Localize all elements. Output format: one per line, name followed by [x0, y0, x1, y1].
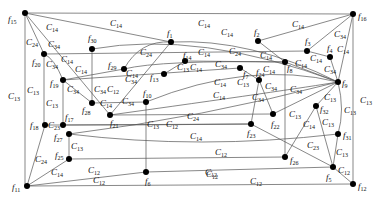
node-label-f26: f26: [290, 155, 299, 166]
edge-label: C13: [289, 109, 301, 120]
graph-node-f23: [248, 121, 254, 127]
edge-label: C24: [140, 47, 152, 58]
graph-node-f28: [89, 100, 95, 106]
graph-node-f13: [161, 71, 167, 77]
edge-label: C14: [213, 90, 225, 101]
graph-node-f20: [41, 51, 47, 57]
edge-label: C13: [147, 119, 159, 130]
graph-node-f30: [89, 46, 95, 52]
graph-node-f5: [330, 164, 336, 170]
node-labels: f15f16f1f2f30f20f3f4f14f29f13f8f7f24f9f1…: [8, 11, 367, 193]
graph-edge: [69, 157, 285, 159]
edge-label: C24: [35, 154, 47, 165]
node-label-f30: f30: [88, 33, 97, 44]
edge-label: C12: [215, 147, 227, 158]
graph-node-f11: [24, 183, 30, 189]
edge-label: C34: [94, 84, 106, 95]
node-label-f23: f23: [247, 128, 256, 139]
node-label-f12: f12: [358, 181, 367, 192]
edge-label: C13: [324, 92, 336, 103]
graph-node-f18: [42, 122, 48, 128]
node-label-f4: f4: [327, 43, 333, 54]
edge-label: C13: [177, 62, 189, 73]
edge-label: C34: [48, 39, 60, 50]
edge-label: C34: [290, 84, 302, 95]
edge-label: C12: [250, 176, 262, 187]
node-label-f21: f21: [110, 118, 119, 129]
graph-canvas: C14C14C14C14C24C34C14C34C14C24C14C24C14C…: [0, 0, 377, 198]
node-label-f32: f32: [320, 104, 329, 115]
edge-label: C24: [187, 111, 199, 122]
node-label-f20: f20: [32, 57, 41, 68]
edge-label: C14: [198, 18, 210, 29]
node-label-f2: f2: [254, 27, 260, 38]
edge-label: C14: [190, 62, 202, 73]
graph-node-f29: [121, 66, 127, 72]
graph-edge: [44, 51, 307, 54]
graph-diagram: C14C14C14C14C24C34C14C34C14C24C14C24C14C…: [0, 0, 377, 198]
edge-label: C23: [307, 140, 319, 151]
edge-label: C14: [61, 54, 73, 65]
edge-label: C13: [344, 105, 356, 116]
graph-node-f17: [60, 122, 66, 128]
graph-edge: [69, 134, 338, 142]
edge-label: C34: [265, 81, 277, 92]
graph-edge: [146, 167, 333, 172]
edge-label: C13: [322, 117, 334, 128]
graph-edge: [316, 106, 333, 167]
node-label-f15: f15: [8, 14, 17, 25]
edge-label: C14: [263, 64, 275, 75]
edge-label: C14: [75, 64, 87, 75]
node-label-f18: f18: [30, 120, 39, 131]
edge-label: C34: [334, 29, 346, 40]
edge-label: C34: [46, 59, 58, 70]
graph-edge: [25, 13, 353, 14]
edge-label: C14: [110, 18, 122, 29]
graph-node-f2: [255, 38, 261, 44]
edge-label: C14: [46, 22, 58, 33]
edge-labels: C14C14C14C14C24C34C14C34C14C24C14C24C14C…: [8, 18, 372, 187]
node-label-f17: f17: [65, 112, 74, 123]
graph-node-f15: [22, 10, 28, 16]
node-label-f1: f1: [167, 28, 173, 39]
node-label-f27: f27: [54, 132, 63, 143]
node-label-f11: f11: [12, 182, 20, 193]
graph-node-f19: [60, 77, 66, 83]
node-label-f22: f22: [271, 119, 280, 130]
graph-node-f3: [304, 48, 310, 54]
edge-label: C13: [71, 141, 83, 152]
graph-edge: [124, 62, 285, 69]
graph-node-f1: [168, 39, 174, 45]
node-label-f19: f19: [50, 78, 59, 89]
graph-node-f27: [66, 131, 72, 137]
edge-label: C34: [122, 96, 134, 107]
edge-label: C14: [295, 58, 307, 69]
edge-label: C12: [166, 119, 178, 130]
graph-edge: [27, 172, 146, 186]
node-label-f16: f16: [358, 11, 367, 22]
graph-node-f31: [335, 131, 341, 137]
edge-label: C14: [337, 44, 349, 55]
edge-label: C14: [51, 167, 63, 178]
node-label-f5: f5: [326, 172, 332, 183]
edge-label: C34: [67, 84, 79, 95]
edge-label: C14: [198, 47, 210, 58]
edge-label: C12: [206, 169, 218, 180]
node-label-f31: f31: [343, 130, 352, 141]
edge-label: C14: [214, 77, 226, 88]
edge-label: C13: [336, 147, 348, 158]
graph-node-f12: [350, 181, 356, 187]
edge-label: C23: [48, 120, 60, 131]
graph-node-f32: [313, 103, 319, 109]
node-label-f28: f28: [82, 105, 91, 116]
graph-edge: [338, 82, 342, 134]
node-label-f6: f6: [145, 176, 151, 187]
edge-label: C12: [93, 175, 105, 186]
graph-node-f26: [282, 154, 288, 160]
edge-label: C14: [292, 19, 304, 30]
edge-label: C13: [360, 95, 372, 106]
node-label-f25: f25: [55, 150, 64, 161]
graph-node-f6: [143, 169, 149, 175]
node-label-f7: f7: [243, 69, 249, 80]
node-label-f14: f14: [183, 50, 192, 61]
